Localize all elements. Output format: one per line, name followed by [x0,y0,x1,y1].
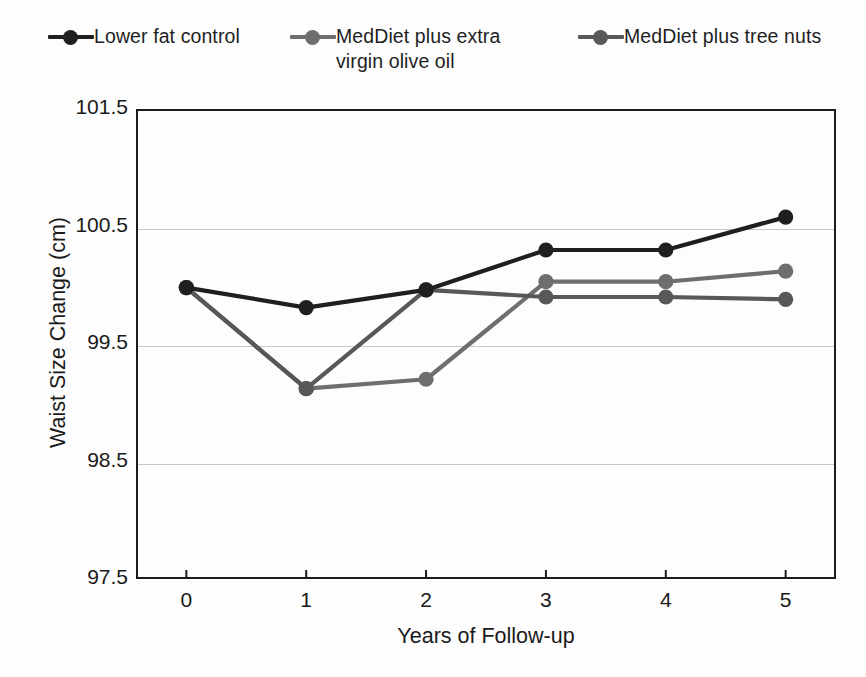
x-tick-label-5: 5 [756,588,816,612]
y-tick-label-97.5: 97.5 [34,565,128,589]
legend-marker-meddiet-tree-nuts [578,26,624,48]
data-point[interactable] [658,242,673,257]
legend-label-meddiet-tree-nuts: MedDiet plus tree nuts [624,24,821,49]
data-point[interactable] [299,381,314,396]
chart-legend: Lower fat control MedDiet plus extra vir… [0,24,866,96]
data-point[interactable] [658,289,673,304]
data-point[interactable] [418,372,433,387]
legend-label-lower-fat-control: Lower fat control [94,24,240,49]
series-layer [136,109,836,579]
y-axis-title: Waist Size Change (cm) [46,123,71,543]
data-point[interactable] [778,264,793,279]
data-point[interactable] [658,274,673,289]
legend-marker-meddiet-olive-oil [290,26,336,48]
x-tick-label-2: 2 [396,588,456,612]
legend-item-meddiet-olive-oil[interactable]: MedDiet plus extra virgin olive oil [290,24,540,74]
data-point[interactable] [538,274,553,289]
x-tick-label-3: 3 [516,588,576,612]
y-tick-label-101.5: 101.5 [34,95,128,119]
chart-figure: Lower fat control MedDiet plus extra vir… [0,0,866,677]
legend-item-meddiet-tree-nuts[interactable]: MedDiet plus tree nuts [578,24,858,49]
x-tick-label-1: 1 [276,588,336,612]
data-point[interactable] [418,282,433,297]
data-point[interactable] [538,242,553,257]
data-point[interactable] [778,210,793,225]
data-point[interactable] [179,280,194,295]
x-axis-title: Years of Follow-up [136,624,836,649]
data-point[interactable] [299,300,314,315]
data-point[interactable] [538,289,553,304]
legend-label-meddiet-olive-oil: MedDiet plus extra virgin olive oil [336,24,500,74]
legend-item-lower-fat-control[interactable]: Lower fat control [48,24,288,49]
x-tick-label-4: 4 [636,588,696,612]
legend-marker-lower-fat-control [48,26,94,48]
series-line-1 [186,271,785,389]
x-tick-label-0: 0 [156,588,216,612]
data-point[interactable] [778,292,793,307]
